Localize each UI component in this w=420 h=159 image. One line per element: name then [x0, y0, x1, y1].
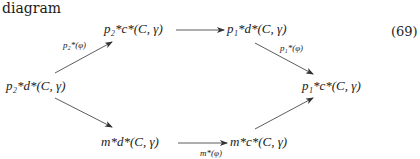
diagram-arrows	[0, 0, 420, 159]
arrow-top-right-to-right	[255, 43, 313, 74]
arrow-bottom-right-to-right	[255, 98, 313, 129]
arrow-left-to-bottom-left	[55, 98, 112, 127]
arrow-left-to-top-left	[55, 42, 112, 73]
